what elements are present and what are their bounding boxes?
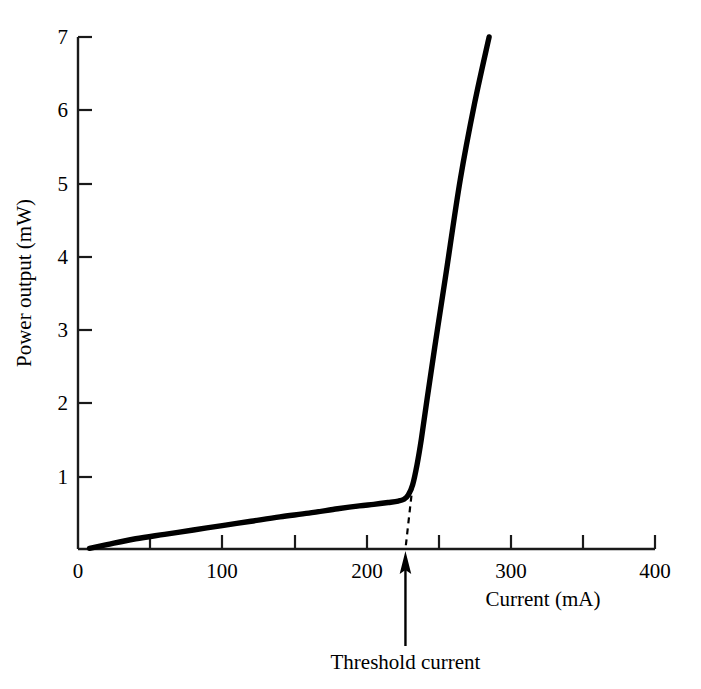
y-tick-label-2: 2 <box>58 391 69 415</box>
chart-background <box>0 0 701 689</box>
x-axis-title: Current (mA) <box>486 587 601 611</box>
x-tick-label-400: 400 <box>639 559 671 583</box>
y-tick-label-1: 1 <box>58 465 69 489</box>
threshold-current-label: Threshold current <box>331 650 481 674</box>
y-tick-label-6: 6 <box>58 98 69 122</box>
y-tick-label-5: 5 <box>58 172 69 196</box>
x-tick-label-200: 200 <box>351 559 383 583</box>
x-tick-label-0: 0 <box>73 559 84 583</box>
x-tick-label-300: 300 <box>495 559 527 583</box>
x-tick-label-100: 100 <box>206 559 238 583</box>
y-tick-label-4: 4 <box>58 245 69 269</box>
y-tick-label-3: 3 <box>58 318 69 342</box>
y-tick-label-7: 7 <box>58 25 69 49</box>
chart-svg: 7 6 5 4 3 2 1 0 100 200 300 400 Curr <box>0 0 701 689</box>
laser-power-current-chart: 7 6 5 4 3 2 1 0 100 200 300 400 Curr <box>0 0 701 689</box>
y-axis-title: Power output (mW) <box>12 199 36 367</box>
